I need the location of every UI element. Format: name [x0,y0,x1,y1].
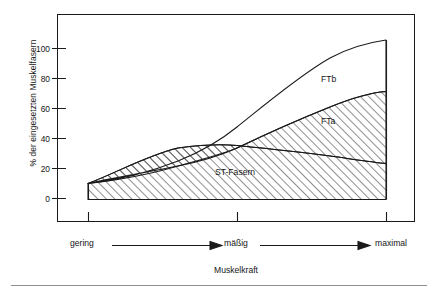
x-scale-label-maximal: maximal [375,238,407,248]
y-tick-label-0: 0 [26,195,50,203]
y-tick-label-20: 20 [26,165,50,173]
bottom-divider [11,285,427,286]
x-scale-labels: gering mäßig maximal [57,238,415,256]
y-tick-label-40: 40 [26,135,50,143]
y-tick-label-60: 60 [26,105,50,113]
x-scale-label-maessig: mäßig [224,238,248,248]
y-tick-label-100: 100 [26,45,50,53]
y-tick-label-80: 80 [26,75,50,83]
x-axis-title: Muskelkraft [57,265,415,275]
plot-frame [57,14,415,222]
x-scale-label-gering: gering [70,238,94,248]
figure-container: % der eingesetzten Muskelfasern 100 80 6… [0,0,438,297]
y-axis-tick-labels: 100 80 60 40 20 0 [26,0,50,297]
